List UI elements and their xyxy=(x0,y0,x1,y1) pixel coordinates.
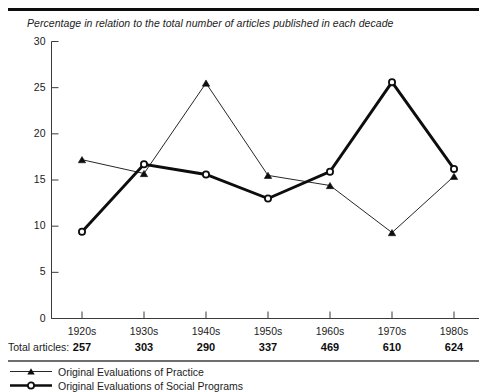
total-articles-value: 303 xyxy=(117,341,171,353)
y-tick-label: 30 xyxy=(20,35,46,47)
legend-item: Original Evaluations of Social Programs xyxy=(8,379,479,392)
total-articles-value: 610 xyxy=(365,341,419,353)
chart-axes xyxy=(52,42,480,319)
total-articles-value: 624 xyxy=(427,341,481,353)
totals-row: Total articles: 257303290337469610624 xyxy=(0,341,487,355)
x-tick-label: 1930s xyxy=(117,325,171,337)
x-tick-label: 1960s xyxy=(303,325,357,337)
x-tick-label: 1980s xyxy=(427,325,481,337)
y-tick-label: 5 xyxy=(20,265,46,277)
data-point-open-circle xyxy=(265,195,271,201)
series-line xyxy=(82,83,454,233)
chart-series xyxy=(78,79,457,236)
total-articles-value: 337 xyxy=(241,341,295,353)
y-tick-label: 15 xyxy=(20,173,46,185)
x-tick-label: 1950s xyxy=(241,325,295,337)
y-tick-label: 10 xyxy=(20,219,46,231)
y-tick-label: 0 xyxy=(20,312,46,324)
x-tick-label: 1970s xyxy=(365,325,419,337)
y-tick-label: 25 xyxy=(20,81,46,93)
legend-label: Original Evaluations of Social Programs xyxy=(58,380,243,392)
chart-legend: Original Evaluations of PracticeOriginal… xyxy=(8,364,479,392)
series-practice xyxy=(78,80,457,236)
data-point-open-circle xyxy=(327,169,333,175)
legend-marker-open-circle xyxy=(8,379,54,392)
data-point-filled-triangle xyxy=(78,157,85,163)
bottom-divider xyxy=(8,360,479,362)
x-tick-label: 1940s xyxy=(179,325,233,337)
data-point-open-circle xyxy=(141,161,147,167)
series-social-programs xyxy=(79,79,457,235)
x-tick-label: 1920s xyxy=(55,325,109,337)
line-chart-plot xyxy=(0,0,487,340)
legend-item: Original Evaluations of Practice xyxy=(8,365,479,378)
data-point-filled-triangle xyxy=(140,170,147,176)
total-articles-value: 257 xyxy=(55,341,109,353)
y-tick-label: 20 xyxy=(20,127,46,139)
data-point-filled-triangle xyxy=(450,173,457,179)
data-point-open-circle xyxy=(389,79,395,85)
data-point-open-circle xyxy=(79,229,85,235)
data-point-filled-triangle xyxy=(202,80,209,86)
data-point-open-circle xyxy=(451,166,457,172)
total-articles-value: 290 xyxy=(179,341,233,353)
legend-marker-filled-triangle xyxy=(8,365,54,378)
legend-label: Original Evaluations of Practice xyxy=(58,366,204,378)
data-point-open-circle xyxy=(203,171,209,177)
data-point-filled-triangle xyxy=(326,182,333,188)
series-line xyxy=(82,82,454,232)
total-articles-value: 469 xyxy=(303,341,357,353)
